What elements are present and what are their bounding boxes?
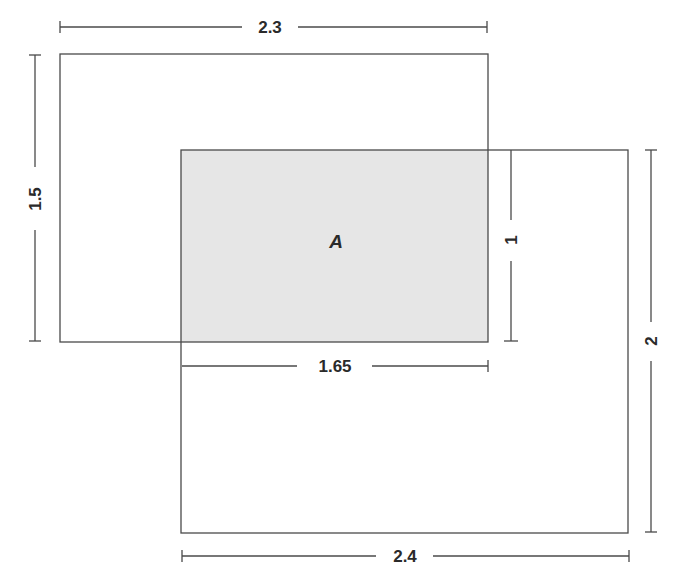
rect1-height-label: 1.5 (26, 187, 45, 211)
overlap-diagram: 2.3 1.5 A 1 1.65 2 2.4 (0, 0, 673, 578)
rect2-width-label: 2.4 (393, 547, 417, 566)
dimension-overlap-width: 1.65 (182, 357, 488, 376)
dimension-rect1-height: 1.5 (26, 55, 45, 341)
rect1-width-label: 2.3 (258, 18, 282, 37)
overlap-label-a: A (328, 231, 343, 252)
dimension-rect2-height: 2 (642, 150, 661, 532)
overlap-height-label: 1 (502, 235, 521, 244)
dimension-overlap-height: 1 (502, 150, 521, 341)
dimension-rect1-width: 2.3 (60, 18, 487, 37)
rect2-height-label: 2 (642, 336, 661, 345)
overlap-width-label: 1.65 (318, 357, 351, 376)
dimension-rect2-width: 2.4 (182, 547, 629, 566)
